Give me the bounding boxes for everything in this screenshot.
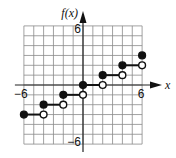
open-endpoint <box>40 111 47 118</box>
closed-endpoint <box>99 72 106 79</box>
x-axis-label: x <box>164 78 171 92</box>
y-tick-label-min: −6 <box>67 135 81 149</box>
open-endpoint <box>139 62 146 69</box>
y-tick-label-max: 6 <box>74 22 81 36</box>
x-tick-label-min: −6 <box>14 87 28 101</box>
closed-point <box>139 52 146 59</box>
closed-endpoint <box>21 111 28 118</box>
closed-endpoint <box>119 62 126 69</box>
open-endpoint <box>80 91 87 98</box>
x-tick-label-max: 6 <box>138 87 145 101</box>
step-function-chart: x f(x) −6 6 −6 6 <box>0 0 176 158</box>
open-endpoint <box>60 101 67 108</box>
closed-endpoint <box>40 101 47 108</box>
open-endpoint <box>99 82 106 89</box>
open-endpoint <box>119 72 126 79</box>
y-axis-label: f(x) <box>61 6 78 20</box>
x-axis-arrow-icon <box>150 82 162 89</box>
closed-endpoint <box>80 82 87 89</box>
closed-endpoint <box>60 91 67 98</box>
axes <box>15 11 162 152</box>
